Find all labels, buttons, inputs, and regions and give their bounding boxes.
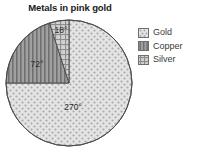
chart-page: Metals in pink gold — [0, 0, 200, 148]
pie-label-silver: 18° — [55, 25, 68, 35]
pie-label-gold: 270° — [64, 102, 82, 112]
chart-legend: Gold Copper — [138, 26, 200, 67]
legend-item-silver[interactable]: Silver — [138, 53, 200, 67]
legend-swatch-copper-icon — [138, 41, 149, 51]
legend-label-copper: Copper — [153, 41, 183, 52]
legend-item-gold[interactable]: Gold — [138, 26, 200, 40]
legend-label-gold: Gold — [153, 27, 172, 38]
legend-swatch-gold-icon — [138, 28, 149, 38]
page-title: Metals in pink gold — [8, 2, 132, 14]
pie-chart: 270° 72° 18° — [0, 14, 136, 148]
legend-item-copper[interactable]: Copper — [138, 40, 200, 54]
legend-label-silver: Silver — [153, 54, 176, 65]
pie-label-copper: 72° — [31, 59, 44, 69]
pie-chart-svg: 270° 72° 18° — [0, 14, 136, 148]
legend-swatch-silver-icon — [138, 55, 149, 65]
